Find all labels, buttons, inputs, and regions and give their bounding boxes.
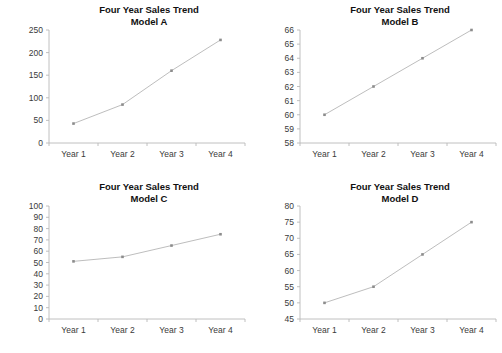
x-category-label: Year 4 [459, 149, 484, 159]
chart-panel-model-c: Four Year Sales TrendModel C010203040506… [0, 177, 251, 353]
y-tick-label: 250 [29, 25, 43, 35]
x-category-label: Year 2 [110, 149, 135, 159]
y-tick-label: 60 [285, 110, 295, 120]
chart-title: Four Year Sales Trend [350, 4, 450, 15]
data-point-marker [121, 103, 124, 106]
y-tick-label: 55 [285, 282, 295, 292]
data-point-marker [470, 221, 473, 224]
x-category-label: Year 4 [459, 325, 484, 335]
chart-title: Four Year Sales Trend [99, 4, 199, 15]
data-point-marker [170, 244, 173, 247]
data-point-marker [372, 85, 375, 88]
y-tick-label: 60 [285, 266, 295, 276]
y-tick-label: 80 [285, 201, 295, 211]
data-point-marker [323, 302, 326, 305]
x-category-label: Year 3 [159, 325, 184, 335]
y-tick-label: 30 [34, 280, 44, 290]
data-point-marker [372, 285, 375, 288]
y-tick-label: 65 [285, 39, 295, 49]
chart-grid: Four Year Sales TrendModel A050100150200… [0, 0, 502, 353]
series-line [325, 222, 472, 303]
y-tick-label: 10 [34, 303, 44, 313]
y-tick-label: 58 [285, 138, 295, 148]
y-tick-label: 0 [38, 314, 43, 324]
series-line [74, 234, 221, 261]
x-category-label: Year 1 [312, 325, 337, 335]
chart-subtitle: Model C [131, 193, 168, 204]
data-point-marker [323, 113, 326, 116]
x-category-label: Year 2 [110, 325, 135, 335]
line-chart-svg: Four Year Sales TrendModel B585960616263… [251, 0, 502, 177]
y-tick-label: 100 [29, 93, 43, 103]
y-tick-label: 75 [285, 217, 295, 227]
series-line [74, 40, 221, 124]
x-category-label: Year 4 [208, 149, 233, 159]
y-tick-label: 50 [34, 115, 44, 125]
y-tick-label: 65 [285, 249, 295, 259]
y-tick-label: 63 [285, 67, 295, 77]
y-tick-label: 45 [285, 314, 295, 324]
line-chart-svg: Four Year Sales TrendModel C010203040506… [0, 177, 251, 353]
y-tick-label: 200 [29, 48, 43, 58]
y-tick-label: 70 [34, 235, 44, 245]
data-point-marker [72, 122, 75, 125]
y-tick-label: 100 [29, 201, 43, 211]
y-tick-label: 90 [34, 212, 44, 222]
x-category-label: Year 3 [159, 149, 184, 159]
chart-title: Four Year Sales Trend [99, 181, 199, 192]
data-point-marker [72, 260, 75, 263]
series-line [325, 30, 472, 115]
x-category-label: Year 3 [410, 325, 435, 335]
data-point-marker [219, 233, 222, 236]
chart-panel-model-b: Four Year Sales TrendModel B585960616263… [251, 0, 502, 177]
chart-subtitle: Model B [382, 16, 419, 27]
data-point-marker [219, 39, 222, 42]
y-tick-label: 40 [34, 269, 44, 279]
x-category-label: Year 1 [312, 149, 337, 159]
y-tick-label: 70 [285, 233, 295, 243]
y-tick-label: 59 [285, 124, 295, 134]
y-tick-label: 64 [285, 53, 295, 63]
y-tick-label: 61 [285, 96, 295, 106]
y-tick-label: 66 [285, 25, 295, 35]
y-tick-label: 50 [285, 298, 295, 308]
chart-title: Four Year Sales Trend [350, 181, 450, 192]
y-tick-label: 150 [29, 70, 43, 80]
chart-subtitle: Model A [131, 16, 168, 27]
data-point-marker [421, 57, 424, 60]
line-chart-svg: Four Year Sales TrendModel A050100150200… [0, 0, 251, 177]
y-tick-label: 62 [285, 82, 295, 92]
chart-panel-model-a: Four Year Sales TrendModel A050100150200… [0, 0, 251, 177]
y-tick-label: 20 [34, 291, 44, 301]
y-tick-label: 0 [38, 138, 43, 148]
data-point-marker [470, 29, 473, 32]
x-category-label: Year 2 [361, 149, 386, 159]
line-chart-svg: Four Year Sales TrendModel D455055606570… [251, 177, 502, 353]
y-tick-label: 80 [34, 224, 44, 234]
x-category-label: Year 2 [361, 325, 386, 335]
y-tick-label: 50 [34, 258, 44, 268]
chart-subtitle: Model D [382, 193, 419, 204]
x-category-label: Year 1 [61, 325, 86, 335]
data-point-marker [170, 69, 173, 72]
y-tick-label: 60 [34, 246, 44, 256]
data-point-marker [121, 256, 124, 259]
x-category-label: Year 1 [61, 149, 86, 159]
chart-panel-model-d: Four Year Sales TrendModel D455055606570… [251, 177, 502, 353]
x-category-label: Year 3 [410, 149, 435, 159]
data-point-marker [421, 253, 424, 256]
x-category-label: Year 4 [208, 325, 233, 335]
